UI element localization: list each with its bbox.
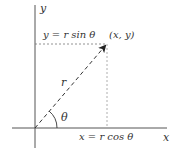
x-projection-label: x = r cos θ xyxy=(79,132,133,142)
y-axis-label: y xyxy=(40,3,46,14)
x-axis-label: x xyxy=(163,132,169,143)
y-projection-label: y = r sin θ xyxy=(43,30,95,40)
angle-arc xyxy=(49,111,57,128)
radius-label: r xyxy=(61,77,66,88)
polar-coordinates-diagram: y y = r sin θ (x, y) r θ x = r cos θ x xyxy=(0,0,183,155)
angle-label: θ xyxy=(61,112,68,123)
point-label: (x, y) xyxy=(109,30,134,40)
radius-vector xyxy=(35,46,105,128)
